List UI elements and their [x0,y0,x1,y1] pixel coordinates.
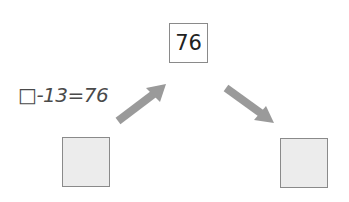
arrow-up-right-icon [118,84,166,121]
right-answer-box[interactable] [280,138,328,188]
arrow-down-right-icon [226,88,274,123]
left-answer-box[interactable] [62,137,110,187]
